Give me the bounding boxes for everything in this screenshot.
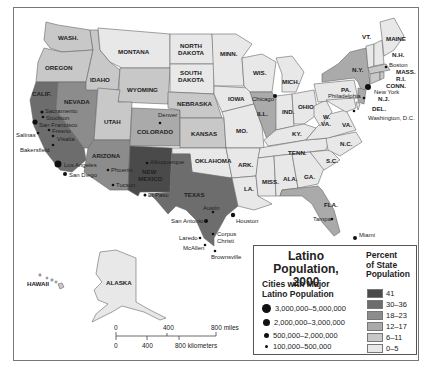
svg-text:0: 0 <box>114 342 118 349</box>
svg-text:800 kilometers: 800 kilometers <box>175 342 218 349</box>
svg-text:MINN.: MINN. <box>220 50 238 57</box>
svg-text:PA.: PA. <box>341 86 351 93</box>
svg-text:Salinas: Salinas <box>16 132 36 138</box>
map-legend: Latino Population, 2000 Cities with Majo… <box>253 245 417 355</box>
state-fla[interactable] <box>280 186 340 236</box>
svg-text:GA.: GA. <box>304 173 315 180</box>
svg-text:VA.: VA. <box>342 121 352 128</box>
swatch-icon <box>367 300 383 309</box>
legend-city-size-4: 100,000–500,000 <box>262 342 331 351</box>
svg-text:N.J.: N.J. <box>378 95 390 102</box>
svg-text:400: 400 <box>142 342 153 349</box>
svg-text:Washington, D.C.: Washington, D.C. <box>368 115 415 121</box>
svg-text:LA.: LA. <box>244 185 254 192</box>
svg-text:CALIF.: CALIF. <box>32 90 52 97</box>
legend-pct-12-17: 12–17 <box>367 322 407 331</box>
svg-text:KANSAS: KANSAS <box>191 130 217 137</box>
svg-text:MEXICO: MEXICO <box>138 175 163 182</box>
svg-text:UTAH: UTAH <box>104 118 121 125</box>
svg-text:FLA.: FLA. <box>324 201 338 208</box>
svg-text:Miami: Miami <box>359 232 375 238</box>
state-mich[interactable] <box>276 56 304 92</box>
svg-text:NEVADA: NEVADA <box>64 98 90 105</box>
svg-text:DAKOTA: DAKOTA <box>178 76 205 83</box>
legend-pct-6-11: 6–11 <box>367 333 402 342</box>
legend-city-size-2: 2,000,000–3,000,000 <box>262 318 345 327</box>
state-ri[interactable] <box>380 72 384 80</box>
swatch-icon <box>367 344 383 353</box>
svg-text:CONN.: CONN. <box>386 82 406 89</box>
svg-text:MASS.: MASS. <box>396 68 416 75</box>
svg-text:HAWAII: HAWAII <box>27 280 49 287</box>
svg-text:Denver: Denver <box>158 112 177 118</box>
svg-text:800 miles: 800 miles <box>211 324 240 331</box>
legend-pct-41: 41 <box>367 289 394 298</box>
svg-text:IND.: IND. <box>282 108 295 115</box>
svg-text:NEBRASKA: NEBRASKA <box>177 100 213 107</box>
state-del[interactable] <box>356 102 360 110</box>
svg-text:MISS.: MISS. <box>262 178 279 185</box>
swatch-icon <box>367 311 383 320</box>
svg-text:Corpus: Corpus <box>217 231 236 237</box>
svg-text:VA.: VA. <box>321 120 331 127</box>
city-dot-icon <box>264 333 269 338</box>
svg-text:WYOMING: WYOMING <box>127 86 158 93</box>
svg-text:S.C.: S.C. <box>326 157 338 164</box>
svg-text:Bakersfield: Bakersfield <box>20 147 50 153</box>
svg-text:Tucson: Tucson <box>116 182 135 188</box>
state-miss[interactable] <box>256 156 276 196</box>
svg-text:R.I.: R.I. <box>396 75 406 82</box>
svg-text:MO.: MO. <box>236 127 248 134</box>
svg-text:COLORADO: COLORADO <box>137 128 173 135</box>
state-conn[interactable] <box>370 72 380 84</box>
svg-text:KY.: KY. <box>292 130 302 137</box>
city-dot-icon <box>262 304 271 313</box>
svg-text:Los Angeles: Los Angeles <box>64 162 97 168</box>
legend-cities-title: Cities with Major Latino Population <box>262 280 352 299</box>
city-dot-icon <box>263 319 270 326</box>
legend-pct-18-23: 18–23 <box>367 311 407 320</box>
svg-text:El Paso: El Paso <box>148 192 169 198</box>
svg-text:Christi: Christi <box>217 238 234 244</box>
svg-text:Fresno: Fresno <box>52 128 71 134</box>
svg-text:Visalia: Visalia <box>57 136 75 142</box>
svg-text:San Diego: San Diego <box>69 172 98 178</box>
svg-text:Laredo: Laredo <box>179 235 198 241</box>
svg-text:Chicago: Chicago <box>252 96 275 102</box>
svg-text:WIS.: WIS. <box>253 69 267 76</box>
svg-text:MICH.: MICH. <box>282 78 300 85</box>
svg-text:McAllen: McAllen <box>183 245 204 251</box>
svg-text:ALA.: ALA. <box>283 175 298 182</box>
swatch-icon <box>367 289 383 298</box>
svg-text:San Antonio: San Antonio <box>171 218 204 224</box>
svg-text:MONTANA: MONTANA <box>118 48 150 55</box>
svg-text:Albuquerque: Albuquerque <box>150 159 185 165</box>
svg-text:0: 0 <box>114 324 118 331</box>
svg-text:IOWA: IOWA <box>228 95 245 102</box>
svg-text:Sacramento: Sacramento <box>45 108 78 114</box>
swatch-icon <box>367 333 383 342</box>
svg-text:Phoenix: Phoenix <box>111 167 133 173</box>
svg-text:Austin: Austin <box>203 205 220 211</box>
svg-text:ARK.: ARK. <box>238 161 253 168</box>
legend-city-size-3: 500,000–2,000,000 <box>262 331 338 340</box>
svg-text:OHIO: OHIO <box>298 103 314 110</box>
state-alaska[interactable] <box>92 250 166 322</box>
svg-text:ILL.: ILL. <box>257 110 268 117</box>
svg-text:N.H.: N.H. <box>392 51 405 58</box>
svg-text:ALASKA: ALASKA <box>106 279 132 286</box>
svg-text:MAINE: MAINE <box>386 35 406 42</box>
svg-text:TENN.: TENN. <box>288 149 307 156</box>
scale-bar: 0 400 800 miles 0 400 800 kilometers <box>114 324 240 349</box>
svg-text:VT.: VT. <box>362 33 371 40</box>
svg-text:Brownsville: Brownsville <box>211 254 242 260</box>
legend-pct-30-36: 30–36 <box>367 300 407 309</box>
svg-text:Philadelphia: Philadelphia <box>328 93 361 99</box>
svg-text:DAKOTA: DAKOTA <box>178 49 205 56</box>
svg-text:NORTH: NORTH <box>180 42 203 49</box>
svg-text:W.: W. <box>323 113 330 120</box>
svg-text:Tampa: Tampa <box>313 216 332 222</box>
svg-text:Boston: Boston <box>389 62 408 68</box>
svg-text:400: 400 <box>163 324 174 331</box>
svg-text:DEL.: DEL. <box>372 105 386 112</box>
